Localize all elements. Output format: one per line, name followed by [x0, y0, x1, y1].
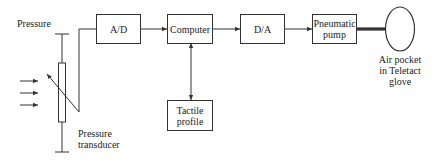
tactile-label-line2: profile — [177, 116, 204, 127]
transducer-label-line1: Pressure — [78, 128, 120, 139]
computer-label: Computer — [170, 24, 210, 35]
pneumatic-pump-block: Pneumatic pump — [312, 14, 357, 44]
air-pocket-label-line1: Air pocket — [370, 54, 430, 65]
transducer-label: Pressure transducer — [78, 128, 120, 150]
wire-transducer-ad — [79, 29, 96, 112]
diagram-lines — [0, 0, 434, 163]
air-pocket-icon — [386, 7, 415, 51]
ad-block: A/D — [96, 14, 141, 44]
pump-label-line1: Pneumatic — [313, 18, 355, 29]
da-block: D/A — [240, 14, 285, 44]
transducer-label-line2: transducer — [78, 139, 120, 150]
computer-block: Computer — [167, 14, 213, 44]
da-label: D/A — [254, 24, 271, 35]
air-pocket-label-line2: in Teletact — [370, 65, 430, 76]
pressure-label: Pressure — [17, 18, 51, 29]
air-pocket-label: Air pocket in Teletact glove — [370, 54, 430, 87]
tactile-label-line1: Tactile — [176, 105, 203, 116]
tactile-profile-block: Tactile profile — [167, 100, 213, 131]
ad-label: A/D — [110, 24, 127, 35]
pump-label-line2: pump — [323, 29, 346, 40]
air-pocket-label-line3: glove — [370, 76, 430, 87]
